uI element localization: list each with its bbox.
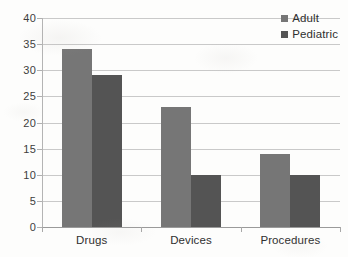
y-tick-label-20: 20 bbox=[23, 117, 36, 128]
y-tick-mark-35 bbox=[37, 44, 42, 45]
bar-devices-adult bbox=[161, 107, 191, 227]
x-tick-label-procedures: Procedures bbox=[260, 233, 320, 247]
x-tick-label-drugs: Drugs bbox=[76, 233, 107, 247]
y-tick-mark-25 bbox=[37, 96, 42, 97]
bar-group-devices bbox=[141, 18, 240, 227]
y-tick-label-10: 10 bbox=[23, 169, 36, 180]
y-tick-mark-10 bbox=[37, 175, 42, 176]
y-axis-line bbox=[42, 18, 43, 227]
x-tick-mark-3 bbox=[340, 227, 341, 232]
y-tick-label-40: 40 bbox=[23, 13, 36, 24]
y-axis-tick-labels: 0510152025303540 bbox=[0, 18, 36, 227]
chart-legend: AdultPediatric bbox=[281, 12, 338, 41]
bar-group-drugs bbox=[42, 18, 141, 227]
legend-swatch-icon-adult bbox=[281, 15, 288, 22]
legend-label-adult: Adult bbox=[292, 12, 319, 25]
y-tick-label-0: 0 bbox=[30, 222, 36, 233]
y-tick-mark-30 bbox=[37, 70, 42, 71]
x-tick-label-devices: Devices bbox=[170, 233, 212, 247]
legend-label-pediatric: Pediatric bbox=[292, 28, 338, 41]
x-tick-mark-2 bbox=[241, 227, 242, 232]
bar-chart: 0510152025303540 DrugsDevicesProcedures … bbox=[0, 0, 348, 257]
y-tick-mark-15 bbox=[37, 149, 42, 150]
x-axis-tick-labels: DrugsDevicesProcedures bbox=[42, 233, 340, 253]
bar-drugs-adult bbox=[62, 49, 92, 227]
x-tick-mark-0 bbox=[42, 227, 43, 232]
y-tick-mark-0 bbox=[37, 227, 42, 228]
legend-item-adult[interactable]: Adult bbox=[281, 12, 338, 25]
x-axis-line bbox=[42, 227, 340, 228]
y-tick-label-35: 35 bbox=[23, 39, 36, 50]
bar-procedures-pediatric bbox=[290, 175, 320, 227]
bar-group-procedures bbox=[241, 18, 340, 227]
y-tick-mark-20 bbox=[37, 123, 42, 124]
y-tick-label-15: 15 bbox=[23, 143, 36, 154]
bar-procedures-adult bbox=[260, 154, 290, 227]
y-tick-mark-5 bbox=[37, 201, 42, 202]
legend-swatch-icon-pediatric bbox=[281, 31, 288, 38]
y-tick-label-30: 30 bbox=[23, 65, 36, 76]
y-tick-label-5: 5 bbox=[30, 195, 36, 206]
bar-devices-pediatric bbox=[191, 175, 221, 227]
y-tick-mark-40 bbox=[37, 18, 42, 19]
plot-area bbox=[42, 18, 340, 227]
bar-drugs-pediatric bbox=[92, 75, 122, 227]
x-tick-mark-1 bbox=[141, 227, 142, 232]
bars-layer bbox=[42, 18, 340, 227]
legend-item-pediatric[interactable]: Pediatric bbox=[281, 28, 338, 41]
y-tick-label-25: 25 bbox=[23, 91, 36, 102]
